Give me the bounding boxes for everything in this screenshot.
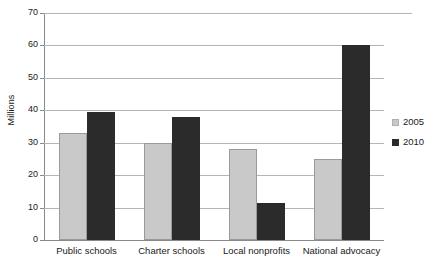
y-axis-tick-label: 40 xyxy=(4,105,38,114)
legend-swatch-2005-icon xyxy=(392,119,399,126)
bar-2005-local-nonprofits[interactable] xyxy=(229,149,257,240)
gridline xyxy=(44,13,412,14)
y-axis-tick xyxy=(40,175,44,176)
gridline xyxy=(44,78,384,79)
bar-2010-local-nonprofits[interactable] xyxy=(257,203,285,240)
legend-item-2005[interactable]: 2005 xyxy=(392,112,424,132)
gridline xyxy=(44,45,384,46)
gridline xyxy=(44,240,384,241)
x-axis-label-public-schools: Public schools xyxy=(44,245,129,256)
y-axis-tick-label: 20 xyxy=(4,170,38,179)
y-axis-tick xyxy=(40,240,44,241)
bar-2005-public-schools[interactable] xyxy=(59,133,87,240)
legend-item-2010[interactable]: 2010 xyxy=(392,132,424,152)
y-axis-tick-label: 30 xyxy=(4,138,38,147)
legend-label-2010: 2010 xyxy=(403,137,424,147)
legend: 2005 2010 xyxy=(392,112,424,152)
bar-2005-national-advocacy[interactable] xyxy=(314,159,342,240)
x-axis-label-national-advocacy: National advocacy xyxy=(299,245,384,256)
plot-area xyxy=(44,13,384,240)
bar-2005-charter-schools[interactable] xyxy=(144,143,172,240)
bar-2010-national-advocacy[interactable] xyxy=(342,45,370,240)
y-axis-tick xyxy=(40,110,44,111)
y-axis-tick xyxy=(40,45,44,46)
y-axis-tick-label: 70 xyxy=(4,8,38,17)
y-axis-tick-label: 50 xyxy=(4,73,38,82)
x-axis-label-charter-schools: Charter schools xyxy=(129,245,214,256)
bar-2010-charter-schools[interactable] xyxy=(172,117,200,240)
x-axis-label-local-nonprofits: Local nonprofits xyxy=(214,245,299,256)
bar-2010-public-schools[interactable] xyxy=(87,112,115,240)
y-axis-tick-label: 10 xyxy=(4,203,38,212)
y-axis-tick xyxy=(40,13,44,14)
bar-chart: Millions 706050403020100 Public schoolsC… xyxy=(0,0,439,275)
y-axis-tick-label: 0 xyxy=(4,235,38,244)
y-axis-tick xyxy=(40,143,44,144)
y-axis-tick xyxy=(40,78,44,79)
legend-label-2005: 2005 xyxy=(403,117,424,127)
y-axis-tick xyxy=(40,208,44,209)
y-axis-tick-label: 60 xyxy=(4,40,38,49)
legend-swatch-2010-icon xyxy=(392,139,399,146)
